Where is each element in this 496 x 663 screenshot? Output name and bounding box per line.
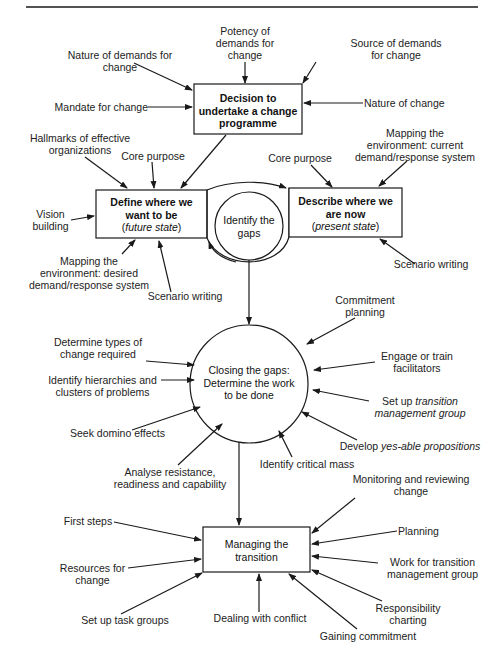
label-line: charting [368,614,448,626]
describe-node: Describe where we are now (present state… [289,195,402,233]
closing-line3: to be done [191,389,307,402]
label-line: Gaining commitment [318,630,418,642]
label-dealing-conflict: Dealing with conflict [205,612,315,624]
identify-line2: gaps [215,227,283,240]
describe-state: present state [315,220,376,232]
label-identify-hierarchies: Identify hierarchies and clusters of pro… [40,374,165,398]
label-line: change [55,61,185,73]
label-line: planning [325,306,405,318]
label-line: Scenario writing [140,290,230,302]
label-source-of-demands: Source of demands for change [336,37,456,61]
label-line: demands for [205,37,285,49]
label-line: environment: current [350,139,480,151]
label-line: building [28,220,73,232]
label-resources: Resources for change [55,562,130,586]
label-responsibility: Responsibility charting [368,602,448,626]
label-scenario-define: Scenario writing [140,290,230,302]
label-line: Core purpose [118,150,188,162]
describe-paren-close: ) [376,220,380,232]
label-line: Monitoring and reviewing [346,473,476,485]
label-line: Mandate for change [48,101,148,113]
closing-line2: Determine the work [191,377,307,390]
label-italic: transition [415,395,458,407]
label-commitment-planning: Commitment planning [325,294,405,318]
label-line: change [205,49,285,61]
label-line: Set up transition [365,395,475,407]
label-line: Seek domino effects [65,427,170,439]
define-line2: want to be [96,209,207,222]
label-line: Set up task groups [75,614,175,626]
label-planning: Planning [398,525,448,537]
label-mapping-desired: Mapping the environment: desired demand/… [24,255,154,291]
label-line: Core purpose [265,152,335,164]
label-line: Mapping the [350,127,480,139]
label-seek-domino: Seek domino effects [65,427,170,439]
label-work-tmg: Work for transition management group [375,556,490,580]
identify-line1: Identify the [215,214,283,227]
closing-line1: Closing the gaps: [191,364,307,377]
label-prefix: Develop [340,440,381,452]
label-italic: management group [365,407,475,419]
label-line: change [55,574,130,586]
label-core-purpose-define: Core purpose [118,150,188,162]
decision-node: Decision to undertake a change programme [194,92,302,130]
label-analyse-resistance: Analyse resistance, readiness and capabi… [105,466,235,490]
managing-line1: Managing the [203,538,310,551]
define-line3: (future state) [96,221,207,234]
managing-node: Managing the transition [203,538,310,563]
label-line: demand/response system [24,279,154,291]
label-line: Commitment [325,294,405,306]
define-paren-close: ) [178,221,182,233]
label-engage-train: Engage or train facilitators [372,350,462,374]
label-italic: yes-able propositions [381,440,480,452]
decision-line1: Decision to [194,92,302,105]
closing-node: Closing the gaps: Determine the work to … [191,364,307,402]
define-state: future state [125,221,178,233]
label-line: change [346,485,476,497]
label-line: Dealing with conflict [205,612,315,624]
label-line: Determine types of [43,336,153,348]
label-potency: Potency of demands for change [205,25,285,61]
identify-node: Identify the gaps [215,214,283,239]
label-prefix: Set up [382,395,415,407]
label-line: Nature of demands for [55,49,185,61]
label-line: First steps [60,515,116,527]
describe-line1: Describe where we [289,195,402,208]
label-monitoring: Monitoring and reviewing change [346,473,476,497]
label-line: Work for transition [375,556,490,568]
define-node: Define where we want to be (future state… [96,196,207,234]
label-line: environment: desired [24,267,154,279]
label-line: Mapping the [24,255,154,267]
label-line: Identify hierarchies and [40,374,165,386]
label-line: readiness and capability [105,478,235,490]
label-scenario-describe: Scenario writing [386,258,476,270]
label-line: Planning [398,525,448,537]
label-line: Vision [28,208,73,220]
managing-line2: transition [203,551,310,564]
label-line: Develop yes-able propositions [335,440,485,452]
label-gaining-commitment: Gaining commitment [318,630,418,642]
label-line: for change [336,49,456,61]
label-nature-of-change: Nature of change [364,97,454,109]
label-line: facilitators [372,362,462,374]
label-line: Analyse resistance, [105,466,235,478]
label-first-steps: First steps [60,515,116,527]
label-line: Potency of [205,25,285,37]
label-line: Identify critical mass [252,458,362,470]
label-line: Resources for [55,562,130,574]
label-line: management group [375,568,490,580]
label-mandate: Mandate for change [48,101,148,113]
label-line: demand/response system [350,151,480,163]
label-line: Responsibility [368,602,448,614]
label-task-groups: Set up task groups [75,614,175,626]
label-line: Scenario writing [386,258,476,270]
label-nature-of-demands: Nature of demands for change [55,49,185,73]
label-set-up-tmg: Set up transition management group [365,395,475,419]
label-line: Source of demands [336,37,456,49]
label-core-purpose-describe: Core purpose [265,152,335,164]
label-yes-able: Develop yes-able propositions [335,440,485,452]
label-line: Engage or train [372,350,462,362]
label-line: Nature of change [364,97,454,109]
label-line: clusters of problems [40,386,165,398]
label-line: Hallmarks of effective [20,132,140,144]
